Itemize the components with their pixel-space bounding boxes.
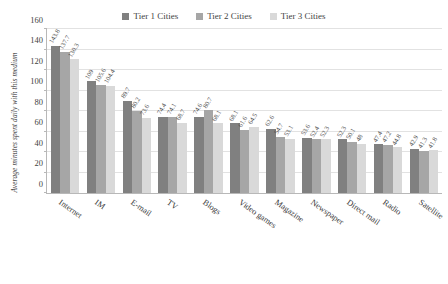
bar: 68.1 bbox=[213, 123, 223, 193]
bar: 41.8 bbox=[429, 150, 439, 193]
bar: 73.6 bbox=[142, 118, 152, 193]
bar-value-label: 44.8 bbox=[391, 133, 402, 146]
bar: 52.3 bbox=[338, 139, 348, 193]
legend-item-tier-1-cities: Tier 1 Cities bbox=[122, 11, 178, 21]
y-axis-title: Average minutes spent daily with this me… bbox=[10, 38, 19, 208]
bar-value-label: 41.8 bbox=[427, 136, 438, 149]
bar-group: 42.941.341.8 bbox=[406, 29, 442, 193]
bar-group: 74.474.168.7 bbox=[155, 29, 191, 193]
x-label-slot: IM bbox=[82, 194, 118, 274]
bar-value-label: 68.7 bbox=[175, 108, 186, 121]
bar: 50.1 bbox=[347, 142, 357, 193]
x-label-slot: Newspaper bbox=[298, 194, 334, 274]
x-label-slot: E-mail bbox=[118, 194, 154, 274]
x-label-slot: Internet bbox=[46, 194, 82, 274]
x-axis-label: Radio bbox=[381, 198, 403, 217]
bar: 53.1 bbox=[285, 139, 295, 193]
bar-value-label: 62.6 bbox=[264, 115, 275, 128]
x-axis-label: E-mail bbox=[129, 198, 153, 218]
y-tick-label: 140 bbox=[30, 35, 43, 45]
legend-swatch-tier-1-cities bbox=[122, 13, 129, 20]
plot-area: 020406080100120140160 143.8137.7130.3109… bbox=[46, 29, 442, 194]
bar: 41.3 bbox=[419, 151, 429, 193]
bar: 42.9 bbox=[410, 149, 420, 193]
bar-group: 62.654.753.1 bbox=[262, 29, 298, 193]
bar: 89.7 bbox=[123, 101, 133, 193]
bar: 143.8 bbox=[51, 46, 61, 193]
legend-label-tier-2-cities: Tier 2 Cities bbox=[207, 11, 252, 21]
bar: 62.6 bbox=[266, 129, 276, 193]
bar: 48 bbox=[357, 144, 367, 193]
legend-label-tier-3-cities: Tier 3 Cities bbox=[281, 11, 326, 21]
bar-value-label: 130.3 bbox=[68, 42, 81, 58]
bar: 74.1 bbox=[168, 117, 178, 193]
bar-value-label: 64.5 bbox=[247, 113, 258, 126]
bar-value-label: 73.6 bbox=[140, 103, 151, 116]
bar: 109 bbox=[87, 81, 97, 193]
y-tick-label: 0 bbox=[39, 179, 43, 189]
bar: 130.3 bbox=[70, 59, 80, 193]
x-axis-label: Internet bbox=[57, 198, 83, 220]
bar: 74.4 bbox=[158, 117, 168, 193]
bar-group: 143.8137.7130.3 bbox=[47, 29, 83, 193]
bar: 64.5 bbox=[249, 127, 259, 193]
legend-item-tier-3-cities: Tier 3 Cities bbox=[270, 11, 326, 21]
chart-legend: Tier 1 Cities Tier 2 Cities Tier 3 Citie… bbox=[0, 11, 448, 21]
x-axis-label: IM bbox=[93, 198, 107, 211]
bar-value-label: 89.7 bbox=[121, 87, 132, 100]
x-axis-labels: InternetIME-mailTVBlogsVideo gamesMagazi… bbox=[46, 194, 442, 274]
bar-group: 74.680.768.1 bbox=[191, 29, 227, 193]
bar-group: 109105.6104.4 bbox=[83, 29, 119, 193]
y-tick-label: 120 bbox=[30, 56, 43, 66]
bar: 80.7 bbox=[204, 110, 214, 193]
x-label-slot: Blogs bbox=[190, 194, 226, 274]
bar: 80.2 bbox=[132, 111, 142, 193]
bar: 137.7 bbox=[60, 52, 70, 193]
y-tick-label: 80 bbox=[35, 97, 44, 107]
bar: 52.3 bbox=[321, 139, 331, 193]
legend-swatch-tier-2-cities bbox=[196, 13, 203, 20]
bar: 47.2 bbox=[383, 145, 393, 193]
bar-chart: Tier 1 Cities Tier 2 Cities Tier 3 Citie… bbox=[0, 0, 448, 284]
x-label-slot: Radio bbox=[370, 194, 406, 274]
bar-group: 47.447.244.8 bbox=[370, 29, 406, 193]
bar-group: 89.780.273.6 bbox=[119, 29, 155, 193]
legend-swatch-tier-3-cities bbox=[270, 13, 277, 20]
bar-groups: 143.8137.7130.3109105.6104.489.780.273.6… bbox=[47, 29, 442, 193]
bar: 104.4 bbox=[106, 86, 116, 193]
x-label-slot: Direct mail bbox=[334, 194, 370, 274]
bar: 53.6 bbox=[302, 138, 312, 193]
bar-group: 68.161.664.5 bbox=[227, 29, 263, 193]
bar: 61.6 bbox=[240, 130, 250, 193]
x-axis-label: TV bbox=[165, 198, 179, 212]
bar: 105.6 bbox=[96, 85, 106, 193]
legend-item-tier-2-cities: Tier 2 Cities bbox=[196, 11, 252, 21]
y-tick-label: 40 bbox=[35, 138, 44, 148]
bar-group: 52.350.148 bbox=[334, 29, 370, 193]
bar: 47.4 bbox=[374, 144, 384, 193]
bar-value-label: 80.7 bbox=[202, 96, 213, 109]
bar-group: 53.652.452.3 bbox=[298, 29, 334, 193]
bar-value-label: 53.1 bbox=[283, 124, 294, 137]
bar: 44.8 bbox=[393, 147, 403, 193]
x-axis-label: Blogs bbox=[201, 198, 222, 217]
x-label-slot: TV bbox=[154, 194, 190, 274]
bar: 52.4 bbox=[312, 139, 322, 193]
x-label-slot: Magazine bbox=[262, 194, 298, 274]
y-tick-label: 60 bbox=[35, 117, 44, 127]
y-tick-label: 160 bbox=[30, 15, 43, 25]
bar: 68.1 bbox=[230, 123, 240, 193]
y-tick-label: 20 bbox=[35, 158, 44, 168]
bar: 74.6 bbox=[194, 117, 204, 193]
bar: 54.7 bbox=[276, 137, 286, 193]
x-label-slot: Satellite bbox=[406, 194, 442, 274]
x-axis-label: Satellite bbox=[417, 198, 445, 221]
y-tick-label: 100 bbox=[30, 76, 43, 86]
bar: 68.7 bbox=[177, 123, 187, 193]
x-label-slot: Video games bbox=[226, 194, 262, 274]
legend-label-tier-1-cities: Tier 1 Cities bbox=[133, 11, 178, 21]
